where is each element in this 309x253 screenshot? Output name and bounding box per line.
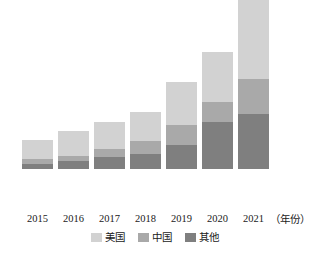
legend-item-中国[interactable]: 中国 [138, 231, 172, 243]
bar-2015[interactable] [22, 140, 53, 169]
bar-segment-2021-美国 [238, 0, 269, 79]
x-tick-label-2019: 2019 [166, 212, 197, 226]
legend-item-美国[interactable]: 美国 [91, 231, 125, 243]
x-tick-label-2017: 2017 [94, 212, 125, 226]
bar-segment-2020-其他 [202, 122, 233, 169]
x-tick-label-2020: 2020 [202, 212, 233, 226]
chart-legend: 美国中国其他 [0, 229, 309, 245]
bar-segment-2019-美国 [166, 82, 197, 125]
bar-segment-2015-其他 [22, 164, 53, 169]
bar-segment-2021-中国 [238, 79, 269, 114]
bar-segment-2018-美国 [130, 112, 161, 141]
bar-segment-2018-其他 [130, 154, 161, 169]
legend-swatch-icon-其他 [185, 233, 196, 242]
bar-segment-2016-其他 [58, 161, 89, 169]
bar-segment-2019-其他 [166, 145, 197, 169]
bar-segment-2017-其他 [94, 157, 125, 169]
legend-label-中国: 中国 [152, 231, 172, 243]
legend-swatch-icon-中国 [138, 233, 149, 242]
x-axis-unit-label: （年份） [270, 212, 309, 226]
bar-segment-2015-美国 [22, 140, 53, 159]
bar-segment-2020-美国 [202, 52, 233, 102]
x-tick-label-2021: 2021 [238, 212, 269, 226]
bar-segment-2019-中国 [166, 125, 197, 145]
bar-2018[interactable] [130, 112, 161, 169]
legend-label-其他: 其他 [199, 231, 219, 243]
bar-segment-2017-美国 [94, 122, 125, 149]
bar-2020[interactable] [202, 52, 233, 169]
bar-segment-2017-中国 [94, 149, 125, 157]
legend-swatch-icon-美国 [91, 233, 102, 242]
x-tick-label-2016: 2016 [58, 212, 89, 226]
bar-2019[interactable] [166, 82, 197, 169]
bar-segment-2016-美国 [58, 131, 89, 156]
bar-2021[interactable] [238, 0, 269, 169]
x-tick-label-2015: 2015 [22, 212, 53, 226]
bar-segment-2020-中国 [202, 102, 233, 122]
bar-segment-2018-中国 [130, 141, 161, 154]
bar-2017[interactable] [94, 122, 125, 169]
plot-area [0, 0, 309, 212]
x-tick-label-2018: 2018 [130, 212, 161, 226]
legend-label-美国: 美国 [105, 231, 125, 243]
bar-segment-2021-其他 [238, 114, 269, 169]
stacked-bar-chart: 2015201620172018201920202021（年份） 美国中国其他 [0, 0, 309, 253]
x-axis-tick-labels: 2015201620172018201920202021（年份） [0, 212, 309, 228]
legend-item-其他[interactable]: 其他 [185, 231, 219, 243]
bar-2016[interactable] [58, 131, 89, 169]
